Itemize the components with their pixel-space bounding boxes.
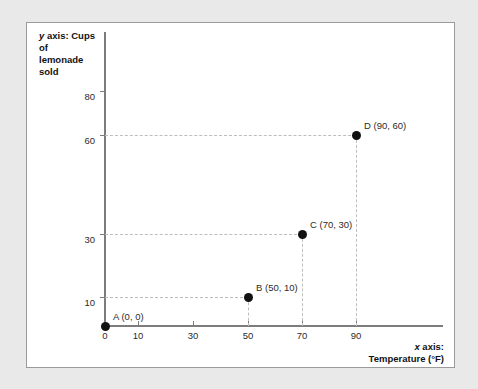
x-tick-label-90: 90 [351,330,362,341]
x-tick-label-0: 0 [102,330,107,341]
x-axis-title: x axis: Temperature (°F) [369,341,444,365]
y-axis-title-line1-rest: axis: Cups of [39,30,95,53]
x-tick-30 [193,321,194,326]
y-tick-label-60: 60 [84,135,95,146]
x-tick-label-70: 70 [297,330,308,341]
guide-vertical-D [356,135,357,326]
data-point-label-A: A (0, 0) [113,311,144,322]
y-tick-label-30: 30 [84,234,95,245]
data-point-A[interactable] [101,322,110,331]
x-axis-line [104,325,443,327]
x-tick-label-30: 30 [188,330,199,341]
y-tick-label-10: 10 [84,297,95,308]
guide-horizontal-D [105,135,356,136]
y-axis-title-line2: lemonade sold [39,54,83,77]
x-axis-title-line2: Temperature (°F) [369,353,444,364]
scatter-plot-screenshot: 0103050709010306080A (0, 0)B (50, 10)C (… [0,0,478,389]
x-tick-label-50: 50 [243,330,254,341]
chart-card: 0103050709010306080A (0, 0)B (50, 10)C (… [26,22,455,368]
y-axis-line [104,32,106,327]
guide-vertical-C [302,234,303,326]
data-point-label-B: B (50, 10) [256,282,298,293]
x-axis-title-line1-rest: axis: [420,341,444,352]
data-point-D[interactable] [352,131,361,140]
guide-horizontal-B [105,297,248,298]
data-point-label-D: D (90, 60) [364,120,406,131]
guide-horizontal-C [105,234,302,235]
x-tick-label-10: 10 [133,330,144,341]
y-tick-80 [100,91,105,92]
y-axis-title: y axis: Cups of lemonade sold [39,30,103,78]
data-point-label-C: C (70, 30) [310,219,352,230]
plot-surface: 0103050709010306080A (0, 0)B (50, 10)C (… [27,23,454,367]
data-point-B[interactable] [244,293,253,302]
data-point-C[interactable] [298,230,307,239]
y-tick-label-80: 80 [84,91,95,102]
